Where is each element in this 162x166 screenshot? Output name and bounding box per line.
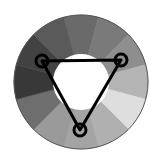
color-wheel[interactable] bbox=[0, 0, 162, 166]
color-wheel-widget: Triadic color harmony wheel bbox=[0, 0, 162, 166]
wheel-center-hole bbox=[53, 54, 109, 110]
